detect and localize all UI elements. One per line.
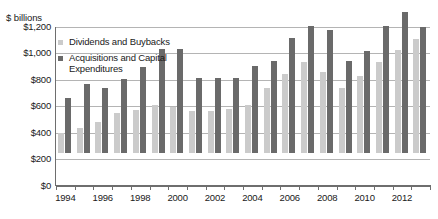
x-tick <box>93 186 94 190</box>
y-tick-label-600: $600 <box>31 101 51 111</box>
bar-acquisitions-1995 <box>84 84 90 153</box>
x-tick <box>75 186 76 190</box>
bar-dividends-2013 <box>413 39 419 153</box>
bar-acquisitions-2010 <box>364 51 370 153</box>
y-tick-label-1200: $1,200 <box>23 22 51 32</box>
bar-dividends-1998 <box>133 110 139 153</box>
legend-label-0: Dividends and Buybacks <box>69 36 170 48</box>
bar-acquisitions-1994 <box>65 98 71 153</box>
x-tick <box>299 186 300 190</box>
x-tick-label-2000: 2000 <box>167 192 187 203</box>
y-axis-tick-labels: $0$200$400$600$800$1,000$1,200 <box>0 0 51 219</box>
bar-acquisitions-2003 <box>233 78 239 153</box>
bar-dividends-2012 <box>395 50 401 153</box>
bar-dividends-2007 <box>301 62 307 153</box>
x-axis-ticks <box>56 186 430 191</box>
bar-dividends-2011 <box>376 62 382 153</box>
bar-acquisitions-2002 <box>215 78 221 153</box>
x-tick-label-2010: 2010 <box>354 192 374 203</box>
x-tick-label-1994: 1994 <box>55 192 75 203</box>
x-tick <box>131 186 132 190</box>
bar-group <box>393 0 412 153</box>
bar-group <box>355 0 374 153</box>
bar-acquisitions-1996 <box>102 88 108 153</box>
y-tick-label-400: $400 <box>31 128 51 138</box>
bar-acquisitions-2006 <box>289 38 295 153</box>
bar-dividends-2009 <box>339 88 345 153</box>
x-tick-label-1998: 1998 <box>130 192 150 203</box>
x-tick <box>430 186 431 190</box>
bar-acquisitions-2013 <box>420 27 426 153</box>
x-tick-label-1996: 1996 <box>93 192 113 203</box>
bar-dividends-2004 <box>245 105 251 153</box>
bar-group <box>299 0 318 153</box>
bar-acquisitions-1998 <box>140 67 146 153</box>
x-tick-label-2006: 2006 <box>280 192 300 203</box>
bar-dividends-2005 <box>264 88 270 153</box>
bar-dividends-1994 <box>58 133 64 153</box>
legend-label-1: Acquisitions and Capital Expenditures <box>69 52 167 75</box>
x-tick <box>168 186 169 190</box>
x-axis-tick-labels: 1994199619982000200220042006200820102012 <box>0 192 438 208</box>
bar-dividends-2008 <box>320 72 326 153</box>
bar-dividends-2000 <box>170 107 176 153</box>
legend-swatch-icon-1 <box>58 56 63 61</box>
x-tick-label-2012: 2012 <box>392 192 412 203</box>
bar-dividends-2010 <box>357 76 363 153</box>
bar-acquisitions-2009 <box>346 61 352 153</box>
bar-dividends-1999 <box>152 105 158 153</box>
x-tick-label-2002: 2002 <box>205 192 225 203</box>
y-tick-label-200: $200 <box>31 154 51 164</box>
bar-dividends-1996 <box>95 122 101 153</box>
x-tick-label-2008: 2008 <box>317 192 337 203</box>
x-tick <box>243 186 244 190</box>
legend-entry-1: Acquisitions and Capital Expenditures <box>58 52 268 75</box>
bar-acquisitions-1997 <box>121 79 127 153</box>
x-tick <box>206 186 207 190</box>
bar-dividends-1995 <box>77 128 83 153</box>
bar-chart: $ billions $0$200$400$600$800$1,000$1,20… <box>0 0 438 219</box>
legend-entry-0: Dividends and Buybacks <box>58 36 268 48</box>
x-tick <box>355 186 356 190</box>
bar-acquisitions-2001 <box>196 78 202 153</box>
bar-group <box>337 0 356 153</box>
x-tick <box>411 186 412 190</box>
legend-swatch-icon-0 <box>58 40 63 45</box>
bar-acquisitions-2011 <box>383 26 389 153</box>
bar-dividends-1997 <box>114 113 120 153</box>
bar-dividends-2001 <box>189 111 195 153</box>
y-tick-label-800: $800 <box>31 75 51 85</box>
bar-acquisitions-2005 <box>271 61 277 153</box>
bar-group <box>411 0 430 153</box>
bar-dividends-2003 <box>226 109 232 153</box>
y-tick-label-1000: $1,000 <box>23 48 51 58</box>
bar-group <box>280 0 299 153</box>
bar-group <box>374 0 393 153</box>
x-tick <box>337 186 338 190</box>
bar-acquisitions-2004 <box>252 66 258 153</box>
bar-group <box>318 0 337 153</box>
y-tick-label-0: $0 <box>41 181 51 191</box>
x-tick <box>393 186 394 190</box>
x-tick <box>112 186 113 190</box>
x-tick <box>224 186 225 190</box>
bar-acquisitions-2007 <box>308 26 314 153</box>
x-tick <box>56 186 57 190</box>
bar-dividends-2006 <box>282 74 288 153</box>
x-tick <box>374 186 375 190</box>
x-tick <box>150 186 151 190</box>
bars-layer <box>56 0 430 186</box>
bar-acquisitions-2012 <box>402 12 408 153</box>
x-tick-label-2004: 2004 <box>242 192 262 203</box>
x-tick <box>187 186 188 190</box>
x-tick <box>262 186 263 190</box>
x-tick <box>280 186 281 190</box>
chart-legend: Dividends and BuybacksAcquisitions and C… <box>58 36 268 79</box>
bar-dividends-2002 <box>208 111 214 153</box>
bar-acquisitions-2008 <box>327 30 333 153</box>
x-tick <box>318 186 319 190</box>
